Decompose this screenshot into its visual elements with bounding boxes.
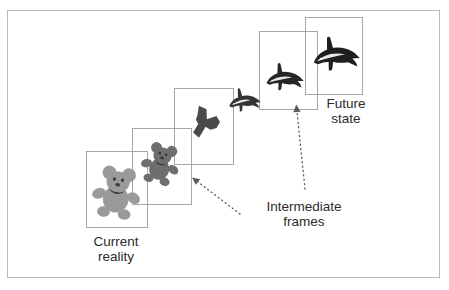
label-future-state: Future state	[310, 96, 382, 126]
morph-subject-bear-morph-1	[138, 139, 184, 185]
label-current-reality: Current reality	[74, 234, 158, 264]
label-intermediate-frames: Intermediate frames	[245, 199, 363, 229]
dotted-arrow-to-frames	[188, 172, 250, 224]
morph-subject-bear-dolphin-blend	[186, 103, 224, 141]
morph-subject-dolphin-morph-1	[225, 82, 261, 118]
morph-subject-dolphin	[308, 28, 360, 80]
diagram-canvas: Current reality Intermediate frames Futu…	[0, 0, 449, 290]
morph-subject-dolphin-morph-2	[262, 56, 304, 98]
